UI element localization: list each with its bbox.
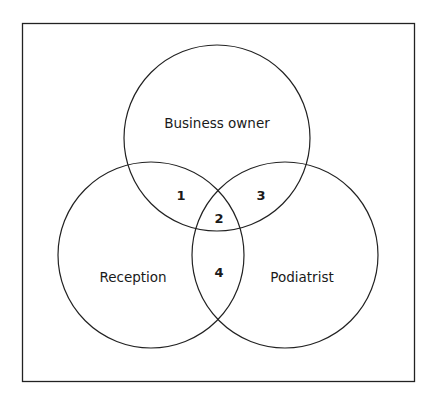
circle-reception bbox=[58, 162, 244, 348]
region-label-1: 1 bbox=[176, 188, 185, 203]
region-label-4: 4 bbox=[214, 265, 223, 280]
circle-business-owner bbox=[124, 45, 310, 231]
set-label-podiatrist: Podiatrist bbox=[270, 269, 333, 285]
circle-podiatrist bbox=[192, 162, 378, 348]
diagram-frame bbox=[23, 24, 415, 382]
set-label-business-owner: Business owner bbox=[164, 115, 270, 131]
region-label-2: 2 bbox=[214, 211, 223, 226]
venn-diagram: Business owner Reception Podiatrist 1 2 … bbox=[0, 0, 436, 400]
region-label-3: 3 bbox=[256, 188, 265, 203]
set-label-reception: Reception bbox=[99, 269, 166, 285]
